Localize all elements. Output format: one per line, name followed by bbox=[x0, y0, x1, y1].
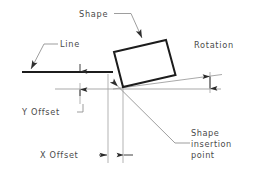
y-offset-leader-line bbox=[77, 104, 83, 112]
technical-diagram: Shape Line Rotation Y Offset X Offset Sh… bbox=[0, 0, 256, 179]
insertion-point-label-line3: point bbox=[191, 150, 215, 160]
insertion-point-label-line2: insertion bbox=[191, 139, 232, 149]
rotation-label: Rotation bbox=[194, 40, 234, 50]
shape-rectangle bbox=[114, 40, 176, 87]
line-label: Line bbox=[60, 39, 80, 49]
diagram-canvas: Shape Line Rotation Y Offset X Offset Sh… bbox=[0, 0, 256, 179]
y-offset-label: Y Offset bbox=[21, 107, 60, 117]
insertion-point-leader-line bbox=[118, 87, 190, 144]
line-leader-line bbox=[31, 44, 58, 69]
x-offset-label: X Offset bbox=[40, 150, 79, 160]
insertion-point-label-line1: Shape bbox=[191, 128, 219, 138]
shape-label: Shape bbox=[79, 9, 108, 19]
shape-leader-line bbox=[114, 14, 142, 39]
